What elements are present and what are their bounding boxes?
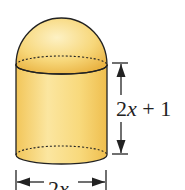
arrow-left-icon	[17, 178, 30, 187]
composite-solid-diagram: 2x + 1 2x	[0, 0, 185, 190]
arrow-up-icon	[117, 64, 126, 77]
arrow-down-icon	[117, 140, 126, 153]
cylinder	[16, 65, 107, 164]
height-label: 2x + 1	[116, 96, 171, 121]
hemisphere	[16, 18, 107, 74]
arrow-right-icon	[92, 178, 105, 187]
width-label: 2x	[48, 176, 69, 190]
